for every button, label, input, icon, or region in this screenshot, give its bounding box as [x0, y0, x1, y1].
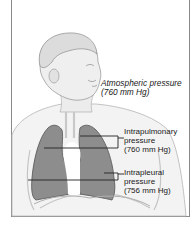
atmospheric-pressure-label: Atmospheric pressure (760 mm Hg)	[101, 79, 182, 97]
intrapulmonary-value: (760 mm Hg)	[124, 145, 177, 154]
intrapleural-title: Intrapleural	[124, 168, 171, 177]
intrapulmonary-pressure-label: Intrapulmonary pressure (760 mm Hg)	[124, 127, 177, 154]
intrapleural-subtitle: pressure	[124, 177, 171, 186]
intrapleural-pressure-label: Intrapleural pressure (756 mm Hg)	[124, 168, 171, 195]
intrapleural-value: (756 mm Hg)	[124, 186, 171, 195]
intrapulmonary-title: Intrapulmonary	[124, 127, 177, 136]
ear	[49, 69, 59, 83]
intrapulmonary-subtitle: pressure	[124, 136, 177, 145]
atmospheric-value: (760 mm Hg)	[101, 88, 182, 97]
